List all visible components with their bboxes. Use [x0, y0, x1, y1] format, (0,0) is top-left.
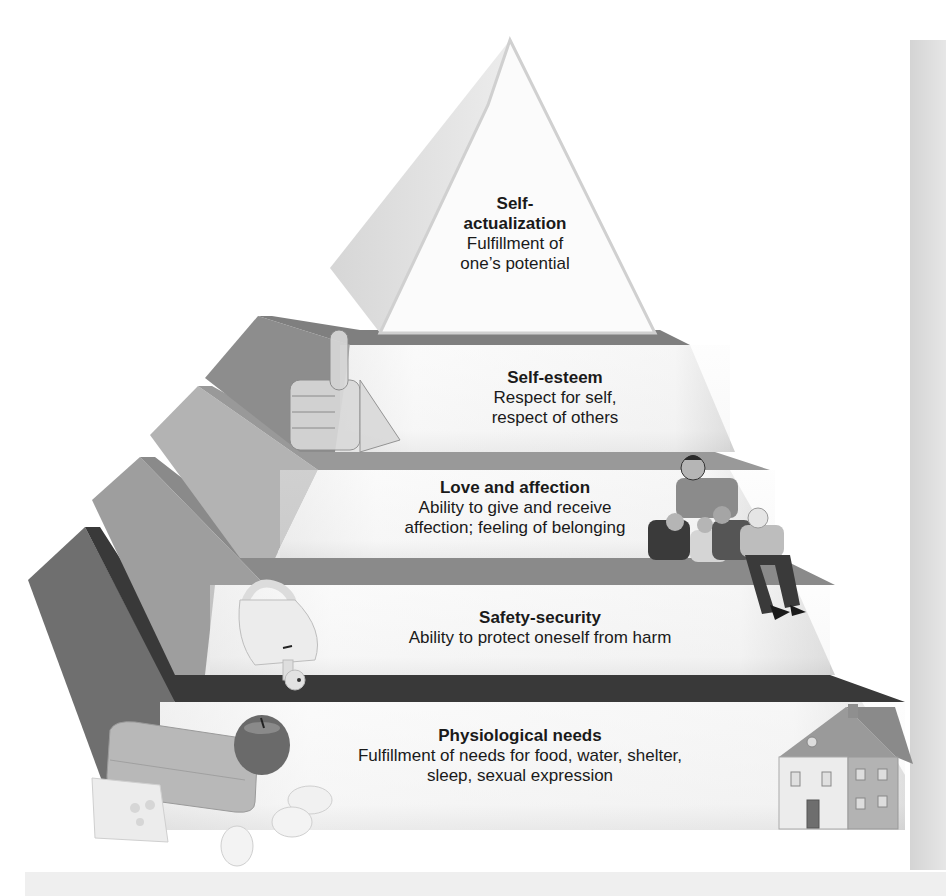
level-title: Self-esteem — [405, 368, 705, 388]
level-title: Physiological needs — [290, 726, 750, 746]
level-description: sleep, sexual expression — [290, 766, 750, 786]
level-title: actualization — [430, 214, 600, 234]
apple-icon — [234, 715, 290, 775]
level-love-label: Love and affection Ability to give and r… — [340, 478, 690, 538]
level-description: Respect for self, — [405, 388, 705, 408]
level-self-esteem-label: Self-esteem Respect for self, respect of… — [405, 368, 705, 428]
level-description: Fulfillment of needs for food, water, sh… — [290, 746, 750, 766]
level-title: Self- — [430, 194, 600, 214]
level-physiological-label: Physiological needs Fulfillment of needs… — [290, 726, 750, 786]
level-self-actualization-label: Self- actualization Fulfillment of one’s… — [430, 194, 600, 274]
level-description: respect of others — [405, 408, 705, 428]
level-title: Safety-security — [330, 608, 750, 628]
level-description: Ability to protect oneself from harm — [330, 628, 750, 648]
pyramid-diagram: Self- actualization Fulfillment of one’s… — [0, 0, 946, 896]
level-self-actualization-shape — [330, 40, 655, 333]
cheese-icon — [92, 778, 168, 842]
level-description: affection; feeling of belonging — [340, 518, 690, 538]
level-description: one’s potential — [430, 254, 600, 274]
level-title: Love and affection — [340, 478, 690, 498]
level-description: Ability to give and receive — [340, 498, 690, 518]
level-safety-label: Safety-security Ability to protect onese… — [330, 608, 750, 648]
level-description: Fulfillment of — [430, 234, 600, 254]
